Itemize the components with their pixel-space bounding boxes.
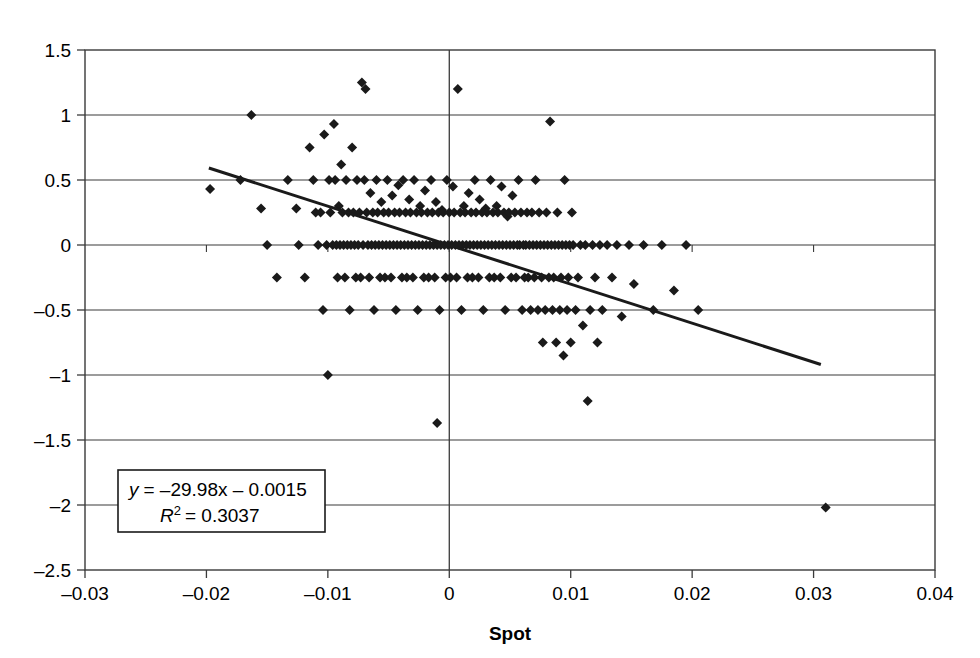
scatter-point	[359, 175, 369, 185]
scatter-point	[473, 273, 483, 283]
scatter-point	[585, 305, 595, 315]
scatter-point	[431, 197, 441, 207]
scatter-point	[571, 305, 581, 315]
scatter-point	[365, 188, 375, 198]
y-tick-label: –2	[50, 495, 71, 516]
scatter-point	[470, 175, 480, 185]
y-tick-label: –2.5	[34, 560, 71, 581]
scatter-point	[545, 117, 555, 127]
scatter-point	[318, 305, 328, 315]
scatter-point	[305, 143, 315, 153]
y-axis-tick-labels: –2.5–2–1.5–1–0.500.511.5	[34, 40, 71, 581]
scatter-point	[531, 175, 541, 185]
scatter-point	[386, 273, 396, 283]
scatter-point	[821, 503, 831, 513]
scatter-point	[205, 184, 215, 194]
scatter-point	[376, 197, 386, 207]
scatter-point	[592, 338, 602, 348]
scatter-point	[478, 305, 488, 315]
scatter-point	[567, 208, 577, 218]
y-tick-label: –1	[50, 365, 71, 386]
scatter-chart: –2.5–2–1.5–1–0.500.511.5 –0.03–0.02–0.01…	[0, 0, 980, 658]
scatter-point	[617, 312, 627, 322]
scatter-point	[323, 370, 333, 380]
scatter-point	[500, 305, 510, 315]
scatter-point	[464, 188, 474, 198]
scatter-point	[347, 143, 357, 153]
x-tick-label: 0.02	[674, 583, 711, 604]
scatter-point	[345, 305, 355, 315]
scatter-point	[495, 273, 505, 283]
scatter-point	[430, 273, 440, 283]
scatter-point	[330, 175, 340, 185]
scatter-point	[590, 273, 600, 283]
scatter-point	[639, 240, 649, 250]
scatter-point	[426, 175, 436, 185]
scatter-point	[391, 305, 401, 315]
scatter-point	[300, 273, 310, 283]
scatter-point	[272, 273, 282, 283]
y-tick-label: 0	[60, 235, 71, 256]
scatter-point	[294, 240, 304, 250]
scatter-point	[420, 185, 430, 195]
scatter-point	[597, 305, 607, 315]
scatter-point	[507, 191, 517, 201]
scatter-point	[369, 305, 379, 315]
scatter-point	[551, 338, 561, 348]
y-tick-label: –0.5	[34, 300, 71, 321]
x-tick-label: –0.01	[304, 583, 352, 604]
scatter-point	[583, 396, 593, 406]
scatter-point	[291, 204, 301, 214]
scatter-point	[283, 175, 293, 185]
chart-canvas: –2.5–2–1.5–1–0.500.511.5 –0.03–0.02–0.01…	[0, 0, 980, 658]
scatter-point	[319, 130, 329, 140]
scatter-point	[578, 321, 588, 331]
y-tick-label: 1	[60, 105, 71, 126]
scatter-point	[256, 204, 266, 214]
r-squared-exponent: 2	[174, 503, 181, 518]
scatter-point	[336, 159, 346, 169]
scatter-point	[573, 273, 583, 283]
scatter-point	[409, 175, 419, 185]
scatter-point	[371, 175, 381, 185]
scatter-point	[607, 273, 617, 283]
equation-line: y= –29.98x – 0.0015	[127, 479, 307, 500]
scatter-point	[262, 240, 272, 250]
scatter-point	[669, 286, 679, 296]
scatter-point	[541, 208, 551, 218]
scatter-point	[435, 305, 445, 315]
scatter-point	[432, 418, 442, 428]
scatter-point	[404, 195, 414, 205]
x-tick-label: –0.02	[183, 583, 231, 604]
scatter-point	[657, 240, 667, 250]
scatter-point	[387, 191, 397, 201]
scatter-point	[560, 175, 570, 185]
r-squared-symbol: R	[160, 505, 174, 526]
y-tick-label: 1.5	[45, 40, 71, 61]
equation-rhs: = –29.98x – 0.0015	[144, 479, 307, 500]
scatter-point	[624, 240, 634, 250]
scatter-point	[442, 175, 452, 185]
scatter-point	[497, 182, 507, 192]
scatter-point	[413, 305, 423, 315]
y-tick-label: 0.5	[45, 170, 71, 191]
regression-annotation-box: y= –29.98x – 0.0015 R2= 0.3037	[118, 470, 325, 532]
scatter-point	[693, 305, 703, 315]
x-tick-label: 0.03	[795, 583, 832, 604]
scatter-point	[308, 175, 318, 185]
scatter-point	[456, 305, 466, 315]
scatter-point	[475, 195, 485, 205]
scatter-point	[453, 84, 463, 94]
scatter-point	[486, 175, 496, 185]
scatter-point	[246, 110, 256, 120]
scatter-point	[341, 175, 351, 185]
scatter-point	[552, 208, 562, 218]
x-axis-tick-labels: –0.03–0.02–0.0100.010.020.030.04	[61, 583, 954, 604]
scatter-point	[382, 175, 392, 185]
scatter-point	[538, 338, 548, 348]
equation-y-symbol: y	[127, 479, 140, 500]
scatter-point	[602, 240, 612, 250]
scatter-point	[452, 273, 462, 283]
scatter-point	[364, 273, 374, 283]
scatter-point	[681, 240, 691, 250]
